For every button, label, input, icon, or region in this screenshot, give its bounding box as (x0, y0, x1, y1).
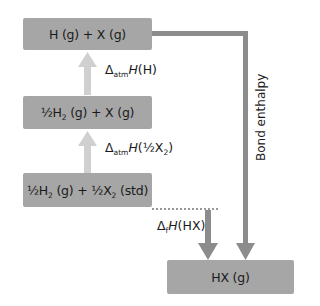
atomisation-x-arrow (78, 131, 97, 173)
level-top-box: H (g) + X (g) (23, 18, 152, 50)
atomisation-h-arrow (78, 52, 97, 95)
level-middle-text: ½H2 (g) + X (g) (41, 105, 135, 120)
atomisation-x-label: ΔatmH(½X2) (105, 140, 173, 155)
level-top-text: H (g) + X (g) (49, 27, 126, 42)
bond-enthalpy-label: Bond enthalpy (254, 74, 268, 161)
level-product-text: HX (g) (211, 270, 249, 285)
level-bottom-text: ½H2 (g) + ½X2 (std) (27, 183, 148, 198)
formation-label: ΔfH(HX) (157, 218, 205, 233)
atomisation-h-label: ΔatmH(H) (105, 62, 157, 77)
level-bottom-box: ½H2 (g) + ½X2 (std) (23, 173, 152, 207)
level-middle-box: ½H2 (g) + X (g) (23, 96, 152, 129)
level-product-box: HX (g) (167, 260, 294, 294)
